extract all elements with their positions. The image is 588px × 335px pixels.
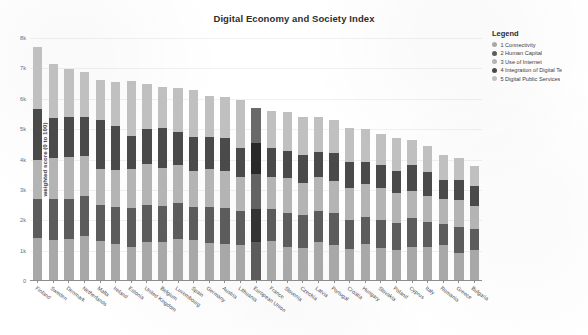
chart-title: Digital Economy and Society Index xyxy=(0,13,588,24)
bar-segment xyxy=(80,156,89,196)
bar-slot[interactable] xyxy=(217,38,233,280)
bar-slot[interactable] xyxy=(139,38,155,280)
legend-item-1[interactable]: 1 Connectivity xyxy=(492,41,588,49)
bar-segment xyxy=(220,244,229,280)
bar-segment xyxy=(454,158,463,180)
bar-segment xyxy=(111,207,120,244)
stacked-bar[interactable] xyxy=(127,81,136,280)
bar-segment xyxy=(80,72,89,116)
stacked-bar[interactable] xyxy=(376,134,385,280)
stacked-bar[interactable] xyxy=(251,108,260,281)
legend-item-label: 4 Integration of Digital Te xyxy=(500,67,562,73)
bar-slot[interactable] xyxy=(389,38,405,280)
bar-segment xyxy=(423,172,432,196)
bar-slot[interactable] xyxy=(326,38,342,280)
x-label-slot: Czechia xyxy=(295,283,311,335)
stacked-bar[interactable] xyxy=(236,100,245,280)
bar-segment xyxy=(158,168,167,206)
stacked-bar[interactable] xyxy=(189,90,198,280)
bar-segment xyxy=(470,206,479,229)
stacked-bar[interactable] xyxy=(80,72,89,280)
legend-item-5[interactable]: 5 Digital Public Services xyxy=(492,75,588,83)
bar-slot[interactable] xyxy=(264,38,280,280)
bar-segment xyxy=(329,120,338,153)
bar-segment xyxy=(96,169,105,205)
stacked-bar[interactable] xyxy=(142,84,151,280)
stacked-bar[interactable] xyxy=(454,158,463,280)
stacked-bar[interactable] xyxy=(439,155,448,280)
stacked-bar[interactable] xyxy=(314,117,323,280)
stacked-bar[interactable] xyxy=(470,166,479,280)
bar-slot[interactable] xyxy=(46,38,62,280)
x-label-slot: Latvia xyxy=(311,283,327,335)
bar-slot[interactable] xyxy=(451,38,467,280)
bar-slot[interactable] xyxy=(404,38,420,280)
legend-item-2[interactable]: 2 Human Capital xyxy=(492,49,588,57)
bar-slot[interactable] xyxy=(202,38,218,280)
x-label-slot: Lithuania xyxy=(233,283,249,335)
bar-slot[interactable] xyxy=(186,38,202,280)
bar-segment xyxy=(298,183,307,215)
stacked-bar[interactable] xyxy=(111,82,120,280)
bar-segment xyxy=(96,80,105,121)
bar-slot[interactable] xyxy=(30,38,46,280)
bar-slot[interactable] xyxy=(435,38,451,280)
stacked-bar[interactable] xyxy=(345,128,354,280)
stacked-bar[interactable] xyxy=(158,87,167,280)
stacked-bar[interactable] xyxy=(392,138,401,280)
stacked-bar[interactable] xyxy=(267,111,276,280)
bar-slot[interactable] xyxy=(280,38,296,280)
bar-segment xyxy=(392,223,401,250)
bar-slot[interactable] xyxy=(248,38,264,280)
bar-segment xyxy=(314,117,323,152)
bar-segment xyxy=(236,211,245,245)
bar-slot[interactable] xyxy=(373,38,389,280)
stacked-bar[interactable] xyxy=(49,64,58,280)
bar-segment xyxy=(173,88,182,132)
bar-segment xyxy=(127,136,136,169)
legend-item-label: 2 Human Capital xyxy=(500,50,542,56)
stacked-bar[interactable] xyxy=(298,117,307,280)
bar-segment xyxy=(189,207,198,240)
stacked-bar[interactable] xyxy=(283,112,292,280)
bar-segment xyxy=(283,112,292,150)
stacked-bar[interactable] xyxy=(329,120,338,280)
bar-slot[interactable] xyxy=(124,38,140,280)
bar-segment xyxy=(376,220,385,249)
bar-slot[interactable] xyxy=(233,38,249,280)
bar-slot[interactable] xyxy=(61,38,77,280)
stacked-bar[interactable] xyxy=(173,88,182,280)
bar-slot[interactable] xyxy=(77,38,93,280)
bar-segment xyxy=(49,199,58,240)
bar-slot[interactable] xyxy=(467,38,483,280)
bar-segment xyxy=(314,242,323,280)
stacked-bar[interactable] xyxy=(205,96,214,280)
bar-segment xyxy=(111,126,120,170)
bar-slot[interactable] xyxy=(311,38,327,280)
stacked-bar[interactable] xyxy=(423,146,432,280)
stacked-bar[interactable] xyxy=(64,69,73,280)
bar-slot[interactable] xyxy=(420,38,436,280)
bar-slot[interactable] xyxy=(357,38,373,280)
stacked-bar[interactable] xyxy=(33,47,42,280)
bar-segment xyxy=(423,222,432,247)
legend-item-4[interactable]: 4 Integration of Digital Te xyxy=(492,66,588,74)
stacked-bar[interactable] xyxy=(96,80,105,280)
y-axis-tick-label: 0 xyxy=(23,278,26,284)
bar-segment xyxy=(267,241,276,280)
bar-segment xyxy=(49,64,58,118)
bar-slot[interactable] xyxy=(170,38,186,280)
stacked-bar[interactable] xyxy=(407,140,416,280)
bar-segment xyxy=(158,128,167,167)
stacked-bar[interactable] xyxy=(220,97,229,280)
bar-slot[interactable] xyxy=(155,38,171,280)
bar-segment xyxy=(345,220,354,249)
bar-segment xyxy=(142,164,151,205)
stacked-bar[interactable] xyxy=(361,129,370,280)
bar-slot[interactable] xyxy=(295,38,311,280)
bar-slot[interactable] xyxy=(108,38,124,280)
bar-segment xyxy=(251,174,260,209)
bar-slot[interactable] xyxy=(92,38,108,280)
legend-item-3[interactable]: 3 Use of Internet xyxy=(492,58,588,66)
bar-slot[interactable] xyxy=(342,38,358,280)
